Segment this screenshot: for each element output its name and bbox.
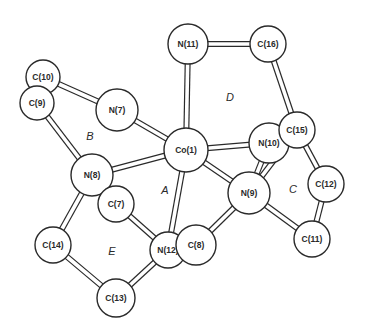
- atom-c12: C(12): [308, 166, 344, 202]
- structure-canvas: ABCDE C(10)C(9)N(11)C(16)N(7)Co(1)N(10)C…: [0, 0, 370, 320]
- atom-n7: N(7): [96, 89, 138, 131]
- atom-label: C(9): [29, 98, 46, 108]
- ring-label-c: C: [289, 183, 297, 195]
- atom-label: C(10): [32, 72, 53, 82]
- atom-c7: C(7): [98, 186, 134, 222]
- molecular-diagram: ABCDE C(10)C(9)N(11)C(16)N(7)Co(1)N(10)C…: [0, 0, 370, 320]
- ring-label-d: D: [226, 91, 234, 103]
- ring-label-b: B: [86, 130, 93, 142]
- ring-label-a: A: [160, 184, 168, 196]
- atom-label: N(11): [178, 39, 199, 49]
- atom-label: C(14): [42, 240, 63, 250]
- atom-label: C(11): [302, 234, 323, 244]
- atom-c14: C(14): [35, 227, 71, 263]
- atom-label: C(13): [105, 293, 126, 303]
- atom-label: Co(1): [175, 145, 197, 155]
- atom-n9: N(9): [228, 172, 270, 214]
- atom-c11: C(11): [294, 221, 330, 257]
- atom-label: C(8): [188, 240, 205, 250]
- atom-label: C(15): [286, 125, 307, 135]
- atom-label: N(7): [109, 105, 126, 115]
- atom-n11: N(11): [168, 24, 208, 64]
- atom-label: C(7): [108, 199, 125, 209]
- atom-label: N(8): [84, 170, 101, 180]
- atom-label: N(10): [258, 138, 279, 148]
- atom-label: N(9): [241, 188, 258, 198]
- atom-c13: C(13): [97, 279, 135, 317]
- atoms-layer: C(10)C(9)N(11)C(16)N(7)Co(1)N(10)C(15)N(…: [20, 24, 344, 317]
- atom-c16: C(16): [250, 26, 286, 62]
- atom-c15: C(15): [279, 112, 315, 148]
- atom-label: C(16): [257, 39, 278, 49]
- atom-co1: Co(1): [164, 128, 208, 172]
- atom-c8: C(8): [176, 225, 216, 265]
- ring-label-e: E: [108, 245, 116, 257]
- atom-label: C(12): [315, 179, 336, 189]
- atom-c9: C(9): [20, 86, 54, 120]
